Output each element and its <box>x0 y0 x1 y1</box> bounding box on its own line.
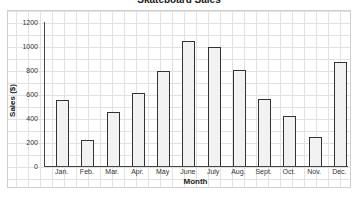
bar-may <box>157 71 170 166</box>
bar-sept <box>258 99 271 166</box>
x-axis-label: Month <box>44 177 347 186</box>
y-tick-label: 800 <box>8 67 38 74</box>
bar-aug <box>233 70 246 166</box>
bar-oct <box>283 116 296 166</box>
bar-july <box>208 47 221 166</box>
bar-feb <box>81 140 94 166</box>
bar-nov <box>309 137 322 166</box>
bar-june <box>182 41 195 166</box>
y-tick-label: 0 <box>8 163 38 170</box>
chart-title: Skateboard Sales <box>0 0 358 5</box>
plot-area <box>44 22 348 167</box>
y-tick-label: 1000 <box>8 43 38 50</box>
bar-mar <box>107 112 120 166</box>
bar-apr <box>132 93 145 166</box>
x-tick-label: Dec. <box>324 168 354 175</box>
bar-dec <box>334 62 347 166</box>
y-axis-label: Sales ($) <box>8 81 17 121</box>
bar-jan <box>56 100 69 166</box>
y-tick-label: 1200 <box>8 19 38 26</box>
y-tick-label: 200 <box>8 139 38 146</box>
